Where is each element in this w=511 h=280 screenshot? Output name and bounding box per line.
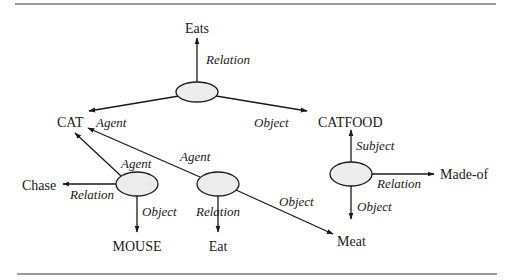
node-made-of: Made-of [440, 167, 489, 182]
event-node-eats [176, 82, 218, 102]
label-right-subject: Subject [356, 138, 395, 153]
edge-top-agent [89, 96, 179, 111]
node-mouse: MOUSE [112, 239, 161, 254]
event-node-chase [116, 172, 158, 196]
node-eat: Eat [209, 239, 228, 254]
event-node-eat [197, 172, 239, 196]
label-left-agent: Agent [120, 156, 152, 171]
label-left-relation: Relation [69, 187, 114, 202]
label-top-agent: Agent [95, 115, 127, 130]
node-cat: CAT [57, 115, 84, 130]
node-catfood: CATFOOD [318, 115, 383, 130]
label-top-object: Object [254, 115, 289, 130]
node-eats: Eats [185, 21, 209, 36]
event-node-made-of [330, 162, 372, 186]
node-meat: Meat [337, 234, 366, 249]
label-right-object: Object [357, 199, 392, 214]
label-top-relation: Relation [205, 52, 250, 67]
node-chase: Chase [22, 178, 56, 193]
label-mid-relation: Relation [195, 204, 240, 219]
semantic-network-diagram: Eats CAT CATFOOD Chase MOUSE Eat Meat Ma… [0, 0, 511, 280]
label-mid-object: Object [279, 194, 314, 209]
label-mid-agent: Agent [179, 149, 211, 164]
edge-top-object [216, 96, 307, 111]
label-right-relation: Relation [376, 176, 421, 191]
label-left-object: Object [142, 204, 177, 219]
